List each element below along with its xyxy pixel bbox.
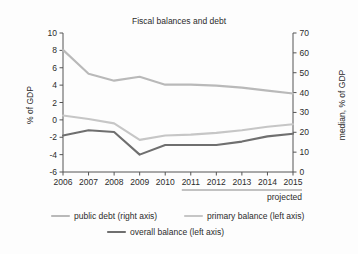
- x-axis-tick-label: 2006: [54, 177, 73, 187]
- right-axis-tick-label: 0: [300, 167, 305, 177]
- x-axis-tick-label: 2011: [182, 177, 201, 187]
- series-line: [63, 50, 293, 94]
- right-axis-tick-label: 50: [300, 68, 310, 78]
- x-axis-tick-label: 2014: [258, 177, 277, 187]
- fiscal-balances-and-debt-chart: Fiscal balances and debt % of GDP median…: [0, 0, 358, 254]
- left-axis-tick-label: 4: [52, 80, 57, 90]
- x-axis-tick-label: 2010: [156, 177, 175, 187]
- left-axis-title: % of GDP: [25, 86, 35, 124]
- left-axis-tick-label: -4: [49, 150, 57, 160]
- right-axis-tick-label: 70: [300, 28, 310, 38]
- right-axis: 706050403020100: [293, 28, 309, 177]
- right-axis-tick-label: 20: [300, 127, 310, 137]
- legend-item: public debt (right axis): [52, 211, 157, 221]
- series-lines: [63, 50, 293, 155]
- x-axis-tick-label: 2013: [232, 177, 251, 187]
- legend-item: primary balance (left axis): [185, 211, 304, 221]
- right-axis-tick-label: 30: [300, 107, 310, 117]
- x-axis-tick-label: 2009: [130, 177, 149, 187]
- x-axis: 2006200720082009201020112012201320142015: [54, 172, 303, 187]
- left-axis-tick-label: 0: [52, 115, 57, 125]
- left-axis-tick-label: 6: [52, 63, 57, 73]
- legend-label: primary balance (left axis): [207, 211, 304, 221]
- left-axis-tick-label: 10: [48, 28, 58, 38]
- chart-legend: public debt (right axis)primary balance …: [52, 211, 304, 237]
- right-axis-title: median, % of GDP: [337, 69, 347, 140]
- series-line: [63, 116, 293, 140]
- x-axis-tick-label: 2008: [105, 177, 124, 187]
- projected-label: projected: [267, 192, 302, 202]
- left-axis-tick-label: 8: [52, 45, 57, 55]
- x-axis-tick-label: 2012: [207, 177, 226, 187]
- chart-title: Fiscal balances and debt: [132, 16, 227, 26]
- x-axis-tick-label: 2015: [284, 177, 303, 187]
- projected-annotation: projected: [182, 190, 302, 202]
- legend-item: overall balance (left axis): [108, 227, 224, 237]
- left-axis-tick-label: -6: [49, 167, 57, 177]
- x-axis-tick-label: 2007: [79, 177, 98, 187]
- legend-label: public debt (right axis): [74, 211, 157, 221]
- series-line: [63, 130, 293, 154]
- right-axis-tick-label: 10: [300, 147, 310, 157]
- right-axis-tick-label: 40: [300, 88, 310, 98]
- left-axis-tick-label: -2: [49, 132, 57, 142]
- left-axis: 1086420-2-4-6: [48, 28, 63, 177]
- right-axis-tick-label: 60: [300, 48, 310, 58]
- chart-figure: Fiscal balances and debt % of GDP median…: [0, 0, 358, 254]
- legend-label: overall balance (left axis): [130, 227, 224, 237]
- left-axis-tick-label: 2: [52, 98, 57, 108]
